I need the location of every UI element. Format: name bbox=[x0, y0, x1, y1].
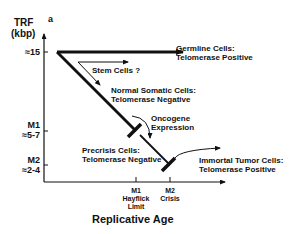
stem-cells-label: Stem Cells ? bbox=[92, 66, 140, 75]
precrisis-label-line1: Precrisis Cells: bbox=[82, 146, 140, 155]
oncogene-curved-arrow bbox=[132, 116, 150, 138]
tumor-label-line1: Immortal Tumor Cells: bbox=[199, 156, 283, 165]
x-tick-m2-line2: Crisis bbox=[150, 195, 190, 203]
panel-letter: a bbox=[48, 15, 53, 24]
germline-label-line1: Germline Cells: bbox=[176, 44, 235, 53]
y-tick-label-m1-value: ≈5-7 bbox=[10, 130, 40, 140]
x-tick-m1-line3: Limit bbox=[116, 203, 156, 211]
x-axis-label: Replicative Age bbox=[92, 214, 174, 225]
y-tick-label-15: ≈15 bbox=[10, 47, 40, 57]
tumor-label-line2: Telomerase Positive bbox=[199, 165, 276, 174]
oncogene-label-line2: Expression bbox=[151, 123, 194, 132]
somatic-label-line1: Normal Somatic Cells: bbox=[111, 86, 196, 95]
x-tick-m2-line1: M2 bbox=[150, 187, 190, 195]
y-tick-label-m2-name: M2 bbox=[10, 155, 40, 165]
somatic-label-line2: Telomerase Negative bbox=[111, 95, 190, 104]
y-axis-label-line1: TRF bbox=[14, 17, 33, 28]
oncogene-label-line1: Oncogene bbox=[151, 114, 190, 123]
y-axis-label-line2: (kbp) bbox=[11, 28, 35, 39]
precrisis-label-line2: Telomerase Negative bbox=[82, 155, 161, 164]
y-tick-label-m2-value: ≈2-4 bbox=[10, 165, 40, 175]
germline-label-line2: Telomerase Positive bbox=[176, 53, 253, 62]
y-tick-label-m1-name: M1 bbox=[10, 120, 40, 130]
